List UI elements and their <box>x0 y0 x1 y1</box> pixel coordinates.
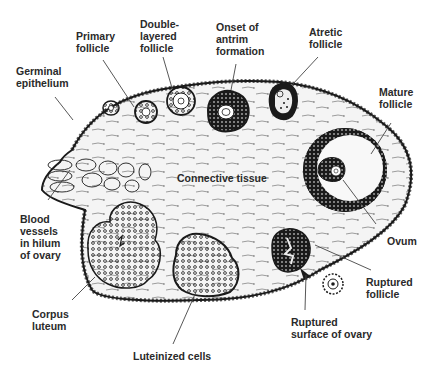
small-follicle <box>103 101 119 115</box>
released-ovum-shape <box>323 274 343 294</box>
antrim-follicle-shape <box>208 91 249 131</box>
primary-follicle-shape <box>135 101 157 123</box>
label-double-layered-follicle: Double- layered follicle <box>140 18 179 54</box>
label-ruptured-surface: Ruptured surface of ovary <box>291 316 372 340</box>
label-connective-tissue: Connective tissue <box>177 172 267 184</box>
label-corpus-luteum: Corpus luteum <box>32 308 69 332</box>
label-ovum: Ovum <box>387 235 417 247</box>
double-layered-follicle-shape <box>167 87 195 115</box>
label-mature-follicle: Mature follicle <box>379 86 413 110</box>
label-luteinized-cells: Luteinized cells <box>133 350 211 362</box>
atretic-follicle-shape <box>269 83 297 119</box>
label-onset-antrim: Onset of antrim formation <box>216 21 264 57</box>
label-germinal-epithelium: Germinal epithelium <box>16 65 69 89</box>
label-primary-follicle: Primary follicle <box>76 30 115 54</box>
label-atretic-follicle: Atretic follicle <box>309 26 342 50</box>
label-blood-vessels: Blood vessels in hilum of ovary <box>20 213 61 261</box>
mature-follicle-shape <box>303 128 387 212</box>
label-ruptured-follicle: Ruptured follicle <box>366 276 413 300</box>
